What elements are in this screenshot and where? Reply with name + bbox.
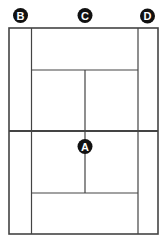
marker-a: A: [78, 139, 93, 154]
marker-b-label: B: [17, 10, 25, 22]
marker-d: D: [140, 9, 155, 24]
marker-a-label: A: [81, 141, 89, 153]
marker-b: B: [13, 8, 28, 23]
marker-c: C: [78, 8, 93, 23]
court: [9, 28, 158, 234]
marker-c-label: C: [81, 10, 89, 22]
tennis-court-diagram: B C D A: [0, 0, 167, 248]
marker-d-label: D: [144, 10, 152, 22]
